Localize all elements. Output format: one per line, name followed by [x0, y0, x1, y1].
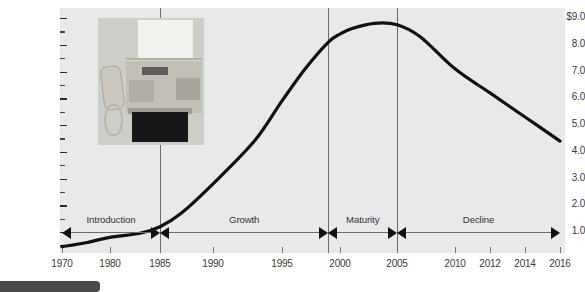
- arrow-right-icon: [319, 227, 328, 239]
- x-axis-tick: [282, 247, 283, 253]
- x-axis-label: 1985: [137, 258, 183, 269]
- fax-keypad: [129, 80, 154, 102]
- x-axis-tick: [560, 247, 561, 253]
- stage-label: Introduction: [62, 214, 160, 225]
- stage-band-growth: Growth: [160, 226, 328, 240]
- stage-band-decline: Decline: [397, 226, 560, 240]
- y-axis-tick: [60, 98, 67, 99]
- fax-cord: [104, 104, 123, 136]
- x-axis-tick: [340, 247, 341, 253]
- stage-label: Decline: [397, 214, 560, 225]
- y-axis-label: 4.0: [547, 145, 585, 156]
- y-axis-minor-tick: [60, 192, 65, 193]
- stage-axis-line: [404, 232, 553, 233]
- arrow-left-icon: [62, 227, 71, 239]
- x-axis-label: 1990: [190, 258, 236, 269]
- x-axis-label: 2005: [374, 258, 420, 269]
- y-axis-minor-tick: [60, 138, 65, 139]
- x-axis-label: 2016: [537, 258, 583, 269]
- y-axis-tick: [60, 45, 67, 46]
- arrow-right-icon: [388, 227, 397, 239]
- x-axis-tick: [525, 247, 526, 253]
- y-axis-tick: [60, 205, 67, 206]
- x-axis-label: 1980: [87, 258, 133, 269]
- y-axis-label: 6.0: [547, 91, 585, 102]
- y-axis-minor-tick: [60, 31, 65, 32]
- stage-axis-line: [335, 232, 390, 233]
- y-axis-label: 7.0: [547, 65, 585, 76]
- y-axis-minor-tick: [60, 112, 65, 113]
- y-axis-label: $9.0: [547, 11, 585, 22]
- fax-paper-tray: [132, 112, 188, 142]
- x-axis-label: 1970: [39, 258, 85, 269]
- x-axis-tick: [62, 247, 63, 253]
- stage-label: Maturity: [328, 214, 397, 225]
- stage-band-introduction: Introduction: [62, 226, 160, 240]
- arrow-left-icon: [328, 227, 337, 239]
- y-axis-label: 2.0: [547, 198, 585, 209]
- y-axis-tick: [60, 152, 67, 153]
- y-axis-tick: [60, 179, 67, 180]
- y-axis-label: 8.0: [547, 38, 585, 49]
- fax-machine-photo: [98, 18, 204, 145]
- arrow-right-icon: [551, 227, 560, 239]
- y-axis-minor-tick: [60, 58, 65, 59]
- stage-axis-line: [69, 232, 153, 233]
- x-axis-tick: [213, 247, 214, 253]
- stage-band-maturity: Maturity: [328, 226, 397, 240]
- arrow-left-icon: [160, 227, 169, 239]
- x-axis-tick: [455, 247, 456, 253]
- arrow-right-icon: [151, 227, 160, 239]
- fax-side-buttons: [176, 78, 200, 100]
- y-axis-minor-tick: [60, 165, 65, 166]
- y-axis-minor-tick: [60, 85, 65, 86]
- fax-display-screen: [142, 67, 168, 75]
- x-axis-tick: [110, 247, 111, 253]
- y-axis-label: 3.0: [547, 172, 585, 183]
- y-axis-tick: [60, 72, 67, 73]
- y-axis-tick: [60, 125, 67, 126]
- y-axis-title: Worldwide sales ($ billions): [0, 0, 8, 30]
- stage-label: Growth: [160, 214, 328, 225]
- bottom-accent-bar: [0, 281, 100, 292]
- y-axis-label: 5.0: [547, 118, 585, 129]
- y-axis-tick: [60, 18, 67, 19]
- x-axis-tick: [490, 247, 491, 253]
- x-axis-label: 2000: [317, 258, 363, 269]
- arrow-left-icon: [397, 227, 406, 239]
- x-axis-label: 1995: [259, 258, 305, 269]
- stage-axis-line: [167, 232, 321, 233]
